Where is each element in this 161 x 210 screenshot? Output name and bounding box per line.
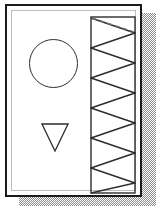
- zigzag-sawtooth-path: [91, 18, 135, 193]
- triangle-outline-path: [42, 124, 68, 151]
- triangle-shape[interactable]: [41, 123, 69, 152]
- circle-shape[interactable]: [29, 39, 78, 88]
- zigzag-panel-shape[interactable]: [90, 16, 138, 196]
- page-outer-frame: [5, 4, 142, 197]
- screenshot-canvas: [0, 0, 161, 210]
